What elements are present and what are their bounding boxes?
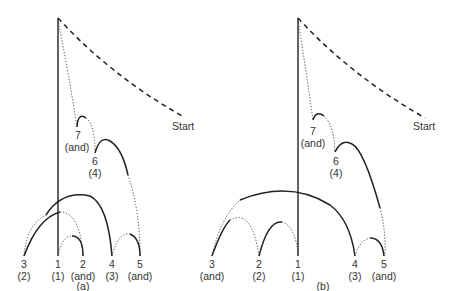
- node-label: 4: [109, 258, 115, 270]
- node-label: 1: [55, 258, 61, 270]
- solid-arc-5: [130, 234, 140, 256]
- start-label: Start: [172, 120, 194, 132]
- start-label: Start: [413, 120, 435, 132]
- dashed-path-to-start: [298, 18, 425, 118]
- node-sublabel: (and): [301, 137, 326, 149]
- solid-arc-2: [259, 222, 282, 256]
- node-sublabel: (4): [330, 167, 343, 179]
- solid-arc-outer-3-to-4: [46, 195, 112, 256]
- node-sublabel: (3): [106, 270, 119, 282]
- node-label: 2: [80, 258, 86, 270]
- dotted-arc-4-to-5: [112, 234, 130, 256]
- dotted-arc-2-to-1: [282, 222, 298, 256]
- dotted-arc-3-outer: [212, 200, 240, 256]
- node-sublabel: (2): [253, 270, 266, 282]
- node-label: 6: [92, 155, 98, 167]
- solid-arc-5: [370, 238, 384, 256]
- node-sublabel: (1): [52, 270, 65, 282]
- diagram-a: Start 7 (and) 6 (4) 3 (2) 1 (1) 2 (and) …: [18, 18, 195, 291]
- dotted-arc-7-to-6: [324, 116, 335, 152]
- dotted-arc-1-to-2-outer: [60, 212, 83, 256]
- node-sublabel: (and): [128, 270, 153, 282]
- solid-arc-2: [72, 236, 83, 256]
- solid-arc-7: [77, 116, 86, 127]
- diagram-caption: (a): [77, 280, 90, 291]
- dotted-arc-3-to-2: [230, 218, 259, 256]
- dotted-arc-1-to-2: [58, 236, 72, 256]
- node-label: 3: [21, 258, 27, 270]
- dotted-arc-top-to-7: [298, 20, 313, 120]
- node-sublabel: (1): [292, 270, 305, 282]
- node-label: 6: [333, 155, 339, 167]
- node-label: 5: [381, 258, 387, 270]
- node-label: 1: [295, 258, 301, 270]
- node-label: 2: [256, 258, 262, 270]
- node-sublabel: (and): [200, 270, 225, 282]
- dotted-arc-4-to-5: [355, 238, 370, 256]
- arc-diagram-figure: Start 7 (and) 6 (4) 3 (2) 1 (1) 2 (and) …: [0, 0, 456, 291]
- node-sublabel: (and): [372, 270, 397, 282]
- node-label: 5: [137, 258, 143, 270]
- dotted-arc-top-to-7: [58, 20, 77, 127]
- solid-arc-7: [313, 114, 324, 120]
- solid-arc-3-inner: [24, 212, 60, 256]
- node-label: 7: [75, 129, 81, 141]
- solid-arc-3-inner: [212, 220, 230, 256]
- dotted-arc-3-outer: [24, 215, 46, 256]
- node-sublabel: (4): [89, 167, 102, 179]
- diagram-b: Start 7 (and) 6 (4) 3 (and) 2 (2) 1 (1) …: [200, 18, 436, 291]
- node-sublabel: (3): [349, 270, 362, 282]
- dashed-path-to-start: [58, 18, 182, 116]
- node-label: 4: [352, 258, 358, 270]
- node-label: 7: [310, 125, 316, 137]
- diagram-caption: (b): [317, 280, 330, 291]
- node-label: 3: [209, 258, 215, 270]
- node-sublabel: (2): [18, 270, 31, 282]
- node-sublabel: (and): [65, 141, 90, 153]
